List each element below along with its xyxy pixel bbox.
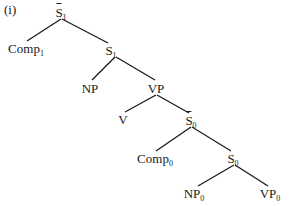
tree-node-comp0: Comp0 <box>137 152 173 165</box>
node-label: S <box>105 44 112 57</box>
node-label: NP <box>82 82 99 95</box>
tree-node-vp: VP <box>148 82 165 95</box>
tree-edges <box>0 0 291 206</box>
node-subscript: 1 <box>40 49 44 58</box>
tree-edge-s1-vp <box>116 57 155 80</box>
tree-node-v: V <box>118 113 127 126</box>
node-subscript: 0 <box>235 159 239 168</box>
syntax-tree-diagram: (i) S1Comp1S1NPVPVS0Comp0S0NP0VP0 <box>0 0 291 206</box>
tree-edge-sbar0-s0 <box>192 127 231 151</box>
tree-node-sbar0: S0 <box>185 114 196 127</box>
node-subscript: 1 <box>113 51 117 60</box>
tree-node-np0: NP0 <box>184 187 205 200</box>
node-label: S <box>55 6 62 19</box>
tree-edge-vp-sbar0 <box>157 95 189 113</box>
tree-node-vp0: VP0 <box>260 187 281 200</box>
node-subscript: 1 <box>63 13 67 22</box>
tree-edge-s1-np <box>92 57 115 80</box>
node-label: S <box>227 152 234 165</box>
node-subscript: 0 <box>276 194 280 203</box>
tree-node-np: NP <box>82 82 99 95</box>
node-label: S <box>185 114 192 127</box>
tree-node-comp1: Comp1 <box>8 42 44 55</box>
node-label: Comp <box>8 42 40 55</box>
node-label: Comp <box>137 152 169 165</box>
node-subscript: 0 <box>193 121 197 130</box>
tree-edge-sbar1-comp1 <box>27 19 61 41</box>
tree-edge-sbar0-comp0 <box>156 127 191 151</box>
node-label: V <box>118 113 127 126</box>
node-label: NP <box>184 187 201 200</box>
tree-node-sbar1: S1 <box>55 6 66 19</box>
tree-node-s0: S0 <box>227 152 238 165</box>
node-label: VP <box>148 82 165 95</box>
tree-edge-sbar1-s1 <box>62 19 108 43</box>
tree-edge-vp-v <box>125 95 156 112</box>
tree-node-s1: S1 <box>105 44 116 57</box>
node-subscript: 0 <box>200 194 204 203</box>
node-label: VP <box>260 187 277 200</box>
node-subscript: 0 <box>169 159 173 168</box>
tree-edge-s0-vp0 <box>235 165 268 186</box>
tree-edge-s0-np0 <box>198 165 234 186</box>
